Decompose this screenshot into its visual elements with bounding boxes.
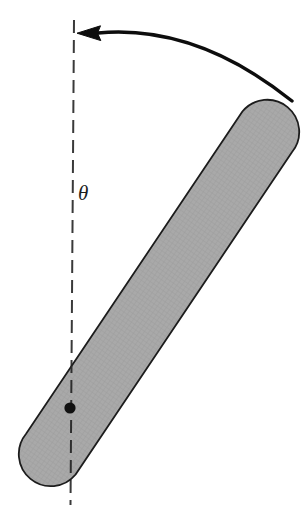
pendulum-figure: θ — [0, 0, 305, 517]
pendulum-diagram-canvas: θ — [0, 0, 305, 517]
angle-label: θ — [78, 181, 88, 205]
pivot-point — [64, 402, 75, 413]
